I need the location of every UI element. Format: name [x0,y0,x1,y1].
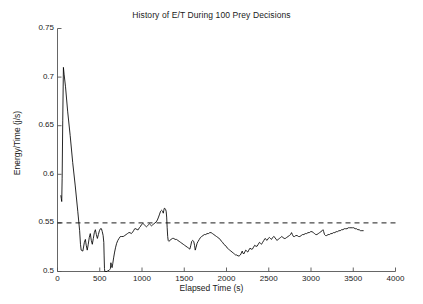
plot-canvas [0,0,423,304]
data-series-line [61,67,363,271]
axis-spines [58,29,396,272]
x-axis-label: Elapsed Time (s) [0,283,423,293]
chart-figure: History of E/T During 100 Prey Decisions… [0,0,423,304]
